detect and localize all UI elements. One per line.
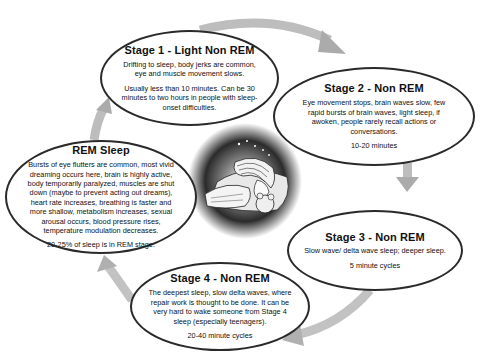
rem-ellipse: REM Sleep Bursts of eye flutters are com… [5, 140, 197, 254]
stage2-description: Eye movement stops, brain waves slow, fe… [295, 98, 453, 136]
stage2-title: Stage 2 - Non REM [324, 82, 424, 94]
stage3-ellipse: Stage 3 - Non REM Slow wave/ delta wave … [287, 210, 463, 291]
stage4-ellipse: Stage 4 - Non REM The deepest sleep, slo… [130, 262, 310, 351]
stage4-title: Stage 4 - Non REM [170, 272, 270, 284]
stage4-description: The deepest sleep, slow delta waves, whe… [148, 288, 292, 326]
stage3-description: Slow wave/ delta wave sleep; deeper slee… [304, 246, 446, 255]
stage4-duration: 20-40 minute cycles [188, 331, 253, 340]
stage3-duration: 5 minute cycles [350, 261, 400, 270]
stage1-duration: Usually less than 10 minutes. Can be 30 … [118, 84, 261, 112]
arrow-rem-to-stage1 [94, 97, 112, 140]
stage2-ellipse: Stage 2 - Non REM Eye movement stops, br… [273, 67, 475, 166]
stage1-title: Stage 1 - Light Non REM [124, 44, 254, 56]
stage1-description: Drifting to sleep, body jerks are common… [118, 60, 261, 79]
arrow-stage4-to-rem [97, 255, 132, 300]
stage1-ellipse: Stage 1 - Light Non REM Drifting to slee… [100, 30, 279, 126]
rem-title: REM Sleep [72, 144, 130, 156]
rem-description: Bursts of eye flutters are common, most … [23, 160, 179, 235]
rem-duration: 20-25% of sleep is in REM stage. [47, 240, 155, 249]
stage2-duration: 10-20 minutes [351, 141, 397, 150]
arrow-stage2-to-stage3 [396, 163, 419, 192]
stage3-title: Stage 3 - Non REM [325, 231, 425, 243]
